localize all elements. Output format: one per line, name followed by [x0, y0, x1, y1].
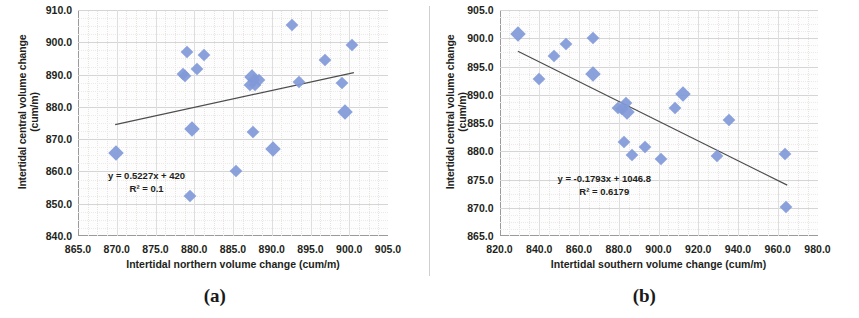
x-axis-tick-label: 875.0 [142, 243, 168, 255]
x-axis-tick-label: 940.0 [725, 243, 751, 255]
y-axis-tick-label: 870.0 [467, 202, 493, 214]
x-axis-tick-label: 840.0 [526, 243, 552, 255]
y-axis-tick-label: 905.0 [467, 4, 493, 16]
chart-panel-a: Intertidal central volume change (cum/m)… [0, 0, 430, 318]
r-squared-a: R² = 0.1 [108, 183, 185, 196]
x-axis-title-b: Intertidal southern volume change (cum/m… [500, 258, 818, 270]
y-axis-title-line1-a: Intertidal central volume change [16, 35, 28, 190]
trendline-segment [115, 73, 354, 125]
chart-panel-b: Intertidal central volume change (cum/m)… [430, 0, 859, 318]
y-axis-tick-label: 900.0 [46, 36, 72, 48]
y-axis-tick-label: 895.0 [467, 61, 493, 73]
x-axis-tick-label: 865.0 [65, 243, 91, 255]
y-axis-tick-label: 890.0 [467, 89, 493, 101]
x-axis-tick-label: 885.0 [220, 243, 246, 255]
y-axis-tick-label: 890.0 [46, 69, 72, 81]
y-axis-tick-label: 910.0 [46, 4, 72, 16]
x-axis-tick-label: 920.0 [685, 243, 711, 255]
regression-annotation-b: y = -0.1793x + 1046.8 R² = 0.6179 [558, 173, 652, 199]
x-axis-tick-label: 900.0 [336, 243, 362, 255]
figure-container: Intertidal central volume change (cum/m)… [0, 0, 859, 318]
x-axis-tick-label: 880.0 [606, 243, 632, 255]
y-axis-tick-label: 860.0 [46, 165, 72, 177]
y-axis-tick-label: 885.0 [467, 117, 493, 129]
x-axis-tick-label: 890.0 [259, 243, 285, 255]
y-axis-tick-label: 880.0 [467, 145, 493, 157]
r-squared-b: R² = 0.6179 [558, 186, 652, 199]
y-axis-title-a: Intertidal central volume change (cum/m) [16, 0, 40, 228]
y-axis-tick-label: 870.0 [46, 133, 72, 145]
y-axis-title-b: Intertidal central volume change (cum/m) [444, 0, 468, 228]
x-axis-tick-label: 905.0 [375, 243, 401, 255]
regression-equation-b: y = -0.1793x + 1046.8 [558, 173, 652, 186]
x-axis-tick-label: 820.0 [486, 243, 512, 255]
regression-annotation-a: y = 0.5227x + 420 R² = 0.1 [108, 170, 185, 196]
y-axis-tick-label: 900.0 [467, 32, 493, 44]
y-axis-tick-label: 865.0 [467, 230, 493, 242]
plot-area-a: y = 0.5227x + 420 R² = 0.1 [78, 10, 388, 236]
trendline-a [78, 10, 388, 236]
x-axis-tick-label: 960.0 [765, 243, 791, 255]
x-axis-tick-label: 980.0 [804, 243, 830, 255]
y-axis-tick-label: 850.0 [46, 198, 72, 210]
y-axis-title-line1-b: Intertidal central volume change [444, 35, 456, 190]
x-axis-tick-label: 860.0 [566, 243, 592, 255]
y-axis-tick-label: 880.0 [46, 101, 72, 113]
regression-equation-a: y = 0.5227x + 420 [108, 170, 185, 183]
y-axis-title-line2-b: (cum/m) [456, 0, 468, 228]
y-axis-tick-label: 875.0 [467, 174, 493, 186]
x-axis-tick-label: 895.0 [297, 243, 323, 255]
subfigure-caption-b: (b) [430, 285, 859, 307]
x-axis-tick-label: 900.0 [645, 243, 671, 255]
plot-area-b: y = -0.1793x + 1046.8 R² = 0.6179 [500, 10, 818, 236]
y-axis-tick-label: 840.0 [46, 230, 72, 242]
x-axis-tick-label: 870.0 [104, 243, 130, 255]
y-axis-title-line2-a: (cum/m) [28, 0, 40, 228]
x-axis-tick-label: 880.0 [181, 243, 207, 255]
trendline-b [500, 10, 818, 236]
subfigure-caption-a: (a) [0, 285, 430, 307]
trendline-segment [517, 51, 786, 185]
x-axis-title-a: Intertidal northern volume change (cum/m… [78, 258, 388, 270]
